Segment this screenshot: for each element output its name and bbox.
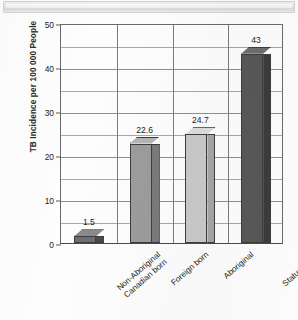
x-axis-label-line: Status Indian [281,250,298,289]
x-axis-label-line: Aboriginal [222,250,256,281]
bar-front-face [130,144,152,243]
bar-side-face [152,144,160,243]
bar-1[interactable] [74,229,104,243]
bar-top-face [241,47,271,54]
gridline-vertical [228,25,229,243]
top-banner-highlight [6,4,292,8]
y-axis-tick-label: 50 [45,20,54,30]
scanned-page: TB Incidence per 100 000 People 01020304… [0,0,298,320]
x-axis-label-3: Aboriginal [222,250,256,281]
bar-front-face [241,54,263,243]
bar-4[interactable] [241,47,271,243]
y-axis-tick-mark [56,245,61,246]
bar-value-label: 24.7 [177,115,223,125]
y-axis-tick-mark [56,25,61,26]
y-axis-tick-label: 30 [45,108,54,118]
bar-chart: TB Incidence per 100 000 People 01020304… [0,14,298,320]
x-axis-label-4: Status Indian [281,250,298,289]
bar-2[interactable] [130,137,160,243]
y-axis-tick-label: 20 [45,152,54,162]
bar-value-label: 1.5 [66,217,112,227]
y-axis-tick-label: 40 [45,64,54,74]
y-axis-tick-label: 0 [49,240,54,250]
gridline-vertical [117,25,118,243]
bar-value-label: 43 [233,35,279,45]
y-axis-tick-mark [56,201,61,202]
bar-side-face [263,54,271,243]
x-axis-label-2: Foreign born [169,250,211,288]
y-axis-tick-label: 10 [45,196,54,206]
bar-side-face [96,236,104,243]
y-axis-title: TB Incidence per 100 000 People [29,2,38,172]
y-axis-tick-mark [56,113,61,114]
bar-top-face [74,229,104,236]
bar-top-face [130,137,160,144]
plot-area: 010203040501.522.624.743 [60,24,283,244]
x-axis-label-line: Foreign born [169,250,211,288]
bar-front-face [74,236,96,243]
bar-top-face [185,127,215,134]
bar-value-label: 22.6 [122,125,168,135]
top-banner [3,1,295,13]
x-axis-label-1: Non-AboriginalCanadian born [115,250,169,301]
bar-side-face [207,134,215,243]
y-axis-tick-mark [56,157,61,158]
bar-front-face [185,134,207,243]
gridline-vertical [173,25,174,243]
bar-3[interactable] [185,127,215,243]
y-axis-tick-mark [56,69,61,70]
